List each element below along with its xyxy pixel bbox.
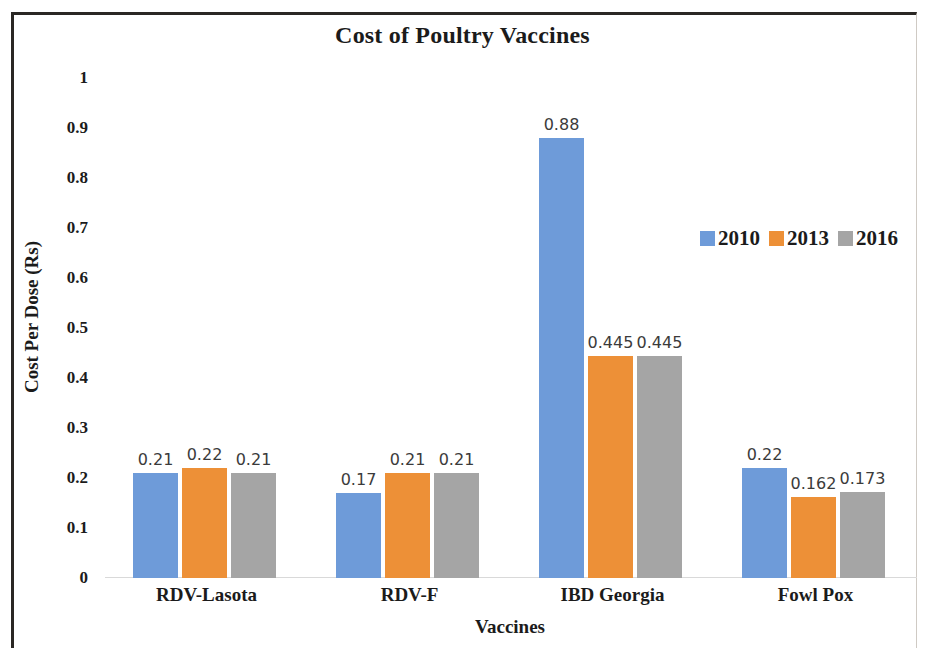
bar-value-label: 0.173 [840, 469, 886, 488]
x-axis-tick-label: RDV-Lasota [105, 584, 308, 606]
bar-slot: 0.17 [336, 78, 381, 578]
chart-title: Cost of Poultry Vaccines [0, 22, 925, 49]
y-axis-tick-label: 1 [26, 68, 88, 88]
bar-value-label: 0.445 [588, 333, 634, 352]
bar-value-label: 0.21 [439, 450, 475, 469]
bar-value-label: 0.88 [544, 115, 580, 134]
bar-slot: 0.22 [182, 78, 227, 578]
y-axis-tick-label: 0.3 [26, 418, 88, 438]
bar-value-label: 0.162 [791, 474, 837, 493]
legend-label: 2016 [856, 226, 898, 251]
bar-slot: 0.173 [840, 78, 885, 578]
bar-group: 0.880.4450.445 [511, 78, 714, 578]
y-axis-tick-label: 0 [26, 568, 88, 588]
legend-label: 2013 [787, 226, 829, 251]
bar-group: 0.170.210.21 [308, 78, 511, 578]
bar-2013-rdv-f[interactable] [385, 473, 430, 578]
bar-2010-fowl-pox[interactable] [742, 468, 787, 578]
chart-figure: Cost of Poultry Vaccines Cost Per Dose (… [0, 0, 925, 658]
bar-slot: 0.162 [791, 78, 836, 578]
bar-value-label: 0.17 [341, 470, 377, 489]
bar-2016-ibd-georgia[interactable] [637, 356, 682, 579]
y-axis-tick-label: 0.9 [26, 118, 88, 138]
bar-2010-ibd-georgia[interactable] [539, 138, 584, 578]
y-axis-tick-label: 0.8 [26, 168, 88, 188]
bar-slot: 0.21 [231, 78, 276, 578]
bar-group: 0.220.1620.173 [714, 78, 917, 578]
bar-slot: 0.445 [637, 78, 682, 578]
y-axis-tick-label: 0.5 [26, 318, 88, 338]
legend-label: 2010 [718, 226, 760, 251]
y-axis-tick-label: 0.1 [26, 518, 88, 538]
bar-slot: 0.22 [742, 78, 787, 578]
bar-value-label: 0.445 [637, 333, 683, 352]
bar-value-label: 0.21 [138, 450, 174, 469]
x-axis-tick-labels: RDV-LasotaRDV-FIBD GeorgiaFowl Pox [105, 584, 917, 606]
plot-area: 0.210.220.210.170.210.210.880.4450.4450.… [105, 78, 917, 578]
y-axis-tick-label: 0.2 [26, 468, 88, 488]
bar-2016-rdv-f[interactable] [434, 473, 479, 578]
bar-2010-rdv-lasota[interactable] [133, 473, 178, 578]
bar-slot: 0.21 [133, 78, 178, 578]
legend-item-2016[interactable]: 2016 [838, 226, 898, 251]
bar-groups: 0.210.220.210.170.210.210.880.4450.4450.… [105, 78, 917, 578]
x-axis-title: Vaccines [105, 616, 915, 638]
bar-2016-rdv-lasota[interactable] [231, 473, 276, 578]
bar-2016-fowl-pox[interactable] [840, 492, 885, 579]
bar-value-label: 0.21 [236, 450, 272, 469]
bar-slot: 0.21 [385, 78, 430, 578]
bar-slot: 0.88 [539, 78, 584, 578]
bar-2013-fowl-pox[interactable] [791, 497, 836, 578]
legend-swatch-icon [838, 231, 853, 246]
x-axis-tick-label: IBD Georgia [511, 584, 714, 606]
chart-legend: 201020132016 [700, 226, 898, 251]
y-axis-tick-labels: 10.90.80.70.60.50.40.30.20.10 [26, 78, 88, 578]
bar-slot: 0.21 [434, 78, 479, 578]
bar-2013-rdv-lasota[interactable] [182, 468, 227, 578]
bar-2010-rdv-f[interactable] [336, 493, 381, 578]
legend-swatch-icon [769, 231, 784, 246]
bar-2013-ibd-georgia[interactable] [588, 356, 633, 579]
y-axis-tick-label: 0.6 [26, 268, 88, 288]
bar-value-label: 0.22 [187, 445, 223, 464]
legend-swatch-icon [700, 231, 715, 246]
legend-item-2013[interactable]: 2013 [769, 226, 829, 251]
bar-slot: 0.445 [588, 78, 633, 578]
x-axis-tick-label: RDV-F [308, 584, 511, 606]
y-axis-tick-label: 0.7 [26, 218, 88, 238]
y-axis-tick-label: 0.4 [26, 368, 88, 388]
bar-group: 0.210.220.21 [105, 78, 308, 578]
x-axis-tick-label: Fowl Pox [714, 584, 917, 606]
legend-item-2010[interactable]: 2010 [700, 226, 760, 251]
bar-value-label: 0.22 [747, 445, 783, 464]
bar-value-label: 0.21 [390, 450, 426, 469]
